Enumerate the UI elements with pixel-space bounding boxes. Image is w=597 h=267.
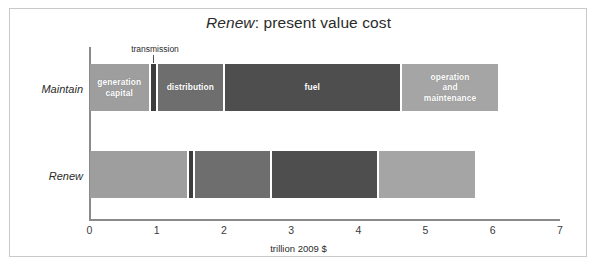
x-tick-label-0: 0 <box>75 224 105 236</box>
x-axis-line <box>89 219 560 221</box>
bar-segment-label: fuel <box>303 82 322 93</box>
bar-segment-renew-generation-capital <box>90 151 188 198</box>
x-tick-label-4: 4 <box>343 224 373 236</box>
figure-container: Renew: present value cost Maintain Renew… <box>0 0 597 267</box>
x-tick-label-7: 7 <box>545 224 575 236</box>
x-tick-label-1: 1 <box>142 224 172 236</box>
bar-segment-renew-operation-and-maintenance <box>378 151 475 198</box>
bar-segment-renew-transmission <box>188 151 195 198</box>
bar-segment-renew-distribution <box>194 151 271 198</box>
bar-segment-maintain-generation-capital: generationcapital <box>90 64 150 111</box>
x-axis-title: trillion 2009 $ <box>0 243 597 254</box>
bar-segment-label: operationandmaintenance <box>422 72 478 104</box>
bar-renew <box>0 151 597 198</box>
bar-segment-label: generationcapital <box>95 77 143 98</box>
x-tick-label-5: 5 <box>411 224 441 236</box>
bar-segment-label: distribution <box>165 82 216 93</box>
chart-title-rest: : present value cost <box>255 14 391 31</box>
chart-title: Renew: present value cost <box>0 14 597 32</box>
bar-maintain: generationcapitaldistributionfueloperati… <box>0 64 597 111</box>
x-tick-label-6: 6 <box>478 224 508 236</box>
bar-segment-maintain-operation-and-maintenance: operationandmaintenance <box>401 64 500 111</box>
bar-segment-maintain-fuel: fuel <box>224 64 401 111</box>
bar-segment-maintain-distribution: distribution <box>157 64 224 111</box>
bar-segment-renew-fuel <box>271 151 379 198</box>
x-tick-label-2: 2 <box>209 224 239 236</box>
x-tick-label-3: 3 <box>276 224 306 236</box>
chart-title-italic: Renew <box>206 14 255 31</box>
annotation-transmission-leader-line <box>153 55 154 63</box>
bar-segment-maintain-transmission <box>150 64 157 111</box>
annotation-transmission-label: transmission <box>113 44 197 54</box>
chart-plot-area: Renew: present value cost Maintain Renew… <box>0 0 597 267</box>
